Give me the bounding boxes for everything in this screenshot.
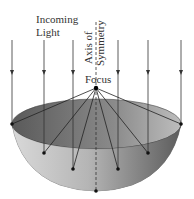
vertex-point xyxy=(94,189,98,193)
axis-label-line1: Axis of xyxy=(82,31,94,64)
incoming-light-label-line2: Light xyxy=(36,26,60,38)
focus-label: Focus xyxy=(85,73,111,85)
parabolic-reflector-diagram: Incoming Light Axis of Symmetry Focus xyxy=(0,0,194,199)
axis-label-line2: Symmetry xyxy=(94,20,106,66)
incoming-light-label-line1: Incoming xyxy=(36,13,79,25)
bowl-inner-surface xyxy=(12,99,181,149)
focus-point xyxy=(94,86,98,90)
